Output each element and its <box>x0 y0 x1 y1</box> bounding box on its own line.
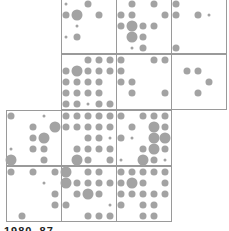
data-dot <box>63 68 70 75</box>
data-dot <box>19 213 26 220</box>
data-dot <box>61 178 72 189</box>
data-dot <box>63 79 70 86</box>
data-dot <box>96 12 103 19</box>
data-dot <box>162 191 169 198</box>
data-dot <box>96 113 103 120</box>
data-dot <box>30 146 37 153</box>
data-dot <box>107 101 114 108</box>
data-dot <box>151 57 158 64</box>
data-dot <box>96 191 103 198</box>
data-dot <box>52 191 59 198</box>
data-dot <box>162 113 169 120</box>
data-dot <box>151 157 158 164</box>
data-dot <box>63 12 70 19</box>
data-dot <box>127 21 138 32</box>
data-dot <box>107 124 114 131</box>
data-dot <box>140 23 147 30</box>
data-dot <box>39 133 50 144</box>
data-dot <box>109 137 112 140</box>
data-dot <box>107 213 114 220</box>
data-dot <box>30 135 37 142</box>
data-dot <box>140 45 147 52</box>
data-dot <box>65 3 68 6</box>
data-dot <box>140 169 147 176</box>
data-dot <box>140 191 147 198</box>
data-dot <box>164 159 167 162</box>
data-dot <box>74 101 81 108</box>
data-dot <box>140 146 147 153</box>
data-dot <box>74 124 81 131</box>
data-dot <box>149 133 160 144</box>
data-dot <box>74 180 81 187</box>
data-dot <box>52 169 59 176</box>
data-dot <box>85 146 92 153</box>
dot-matrix-chart <box>0 0 229 231</box>
data-dot <box>30 124 37 131</box>
data-dot <box>85 113 92 120</box>
data-dot <box>160 133 171 144</box>
data-dot <box>162 90 169 97</box>
chart-cell <box>171 54 227 110</box>
data-dot <box>107 180 114 187</box>
data-dot <box>149 144 160 155</box>
data-dot <box>195 90 202 97</box>
data-dot <box>8 169 15 176</box>
data-dot <box>118 202 125 209</box>
data-dot <box>162 124 169 131</box>
data-dot <box>195 12 202 19</box>
data-dot <box>127 178 138 189</box>
data-dot <box>162 146 169 153</box>
data-dot <box>87 103 90 106</box>
data-dot <box>8 113 15 120</box>
data-dot <box>140 34 147 41</box>
data-dot <box>74 191 81 198</box>
data-dot <box>50 122 61 133</box>
data-dot <box>63 90 70 97</box>
data-dot <box>85 157 92 164</box>
data-dot <box>10 148 13 151</box>
data-dot <box>74 34 81 41</box>
data-dot <box>162 180 169 187</box>
data-dot <box>131 47 134 50</box>
data-dot <box>107 146 114 153</box>
data-dot <box>195 68 202 75</box>
data-dot <box>109 204 112 207</box>
data-dot <box>118 191 125 198</box>
data-dot <box>41 146 48 153</box>
data-dot <box>63 101 70 108</box>
data-dot <box>74 146 81 153</box>
data-dot <box>162 12 169 19</box>
data-dot <box>173 45 180 52</box>
data-dot <box>85 57 92 64</box>
data-dot <box>96 213 103 220</box>
data-dot <box>96 146 103 153</box>
data-dot <box>83 189 94 200</box>
data-dot <box>118 79 125 86</box>
footer-label: 1980–87 <box>4 226 54 231</box>
data-dot <box>107 157 114 164</box>
data-dot <box>43 115 46 118</box>
data-dot <box>129 12 136 19</box>
data-dot <box>96 135 103 142</box>
data-dot <box>151 113 158 120</box>
data-dot <box>85 169 92 176</box>
data-dot <box>96 124 103 131</box>
data-dot <box>61 167 72 178</box>
data-dot <box>118 57 125 64</box>
data-dot <box>127 32 138 43</box>
data-dot <box>118 68 125 75</box>
data-dot <box>140 202 147 209</box>
data-dot <box>41 157 48 164</box>
data-dot <box>118 113 125 120</box>
data-dot <box>107 68 114 75</box>
data-dot <box>151 23 158 30</box>
data-dot <box>129 1 136 8</box>
data-dot <box>74 79 81 86</box>
data-dot <box>96 68 103 75</box>
data-dot <box>85 79 92 86</box>
data-dot <box>138 155 149 166</box>
data-dot <box>120 159 123 162</box>
data-dot <box>74 113 81 120</box>
data-dot <box>206 79 213 86</box>
data-dot <box>173 1 180 8</box>
